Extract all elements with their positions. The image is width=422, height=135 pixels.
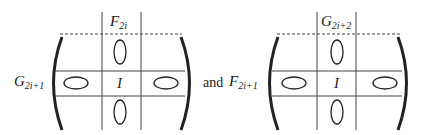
right-identity-label: I	[333, 75, 340, 91]
left-close-paren	[181, 37, 190, 130]
left-top-ellipse	[114, 40, 126, 64]
left-right-ellipse	[154, 77, 178, 89]
left-identity-label: I	[116, 75, 123, 91]
left-bottom-ellipse	[114, 100, 126, 124]
left-matrix: G2i+1 F2i I	[14, 12, 190, 130]
right-left-ellipse	[282, 77, 306, 89]
right-close-paren	[398, 37, 407, 130]
connector-text: and	[203, 75, 223, 90]
left-open-paren	[54, 37, 63, 130]
left-column-label: F2i	[109, 13, 127, 31]
left-left-ellipse	[64, 77, 88, 89]
block-matrix-diagram: G2i+1 F2i I and F2i+1 G2i+2	[0, 0, 422, 135]
right-column-label: G2i+2	[321, 13, 351, 31]
right-row-label: F2i+1	[228, 73, 258, 91]
right-open-paren	[270, 37, 279, 130]
right-right-ellipse	[373, 77, 397, 89]
right-matrix: F2i+1 G2i+2 I	[228, 12, 407, 130]
right-top-ellipse	[331, 40, 343, 64]
right-bottom-ellipse	[331, 100, 343, 124]
left-row-label: G2i+1	[14, 73, 44, 91]
